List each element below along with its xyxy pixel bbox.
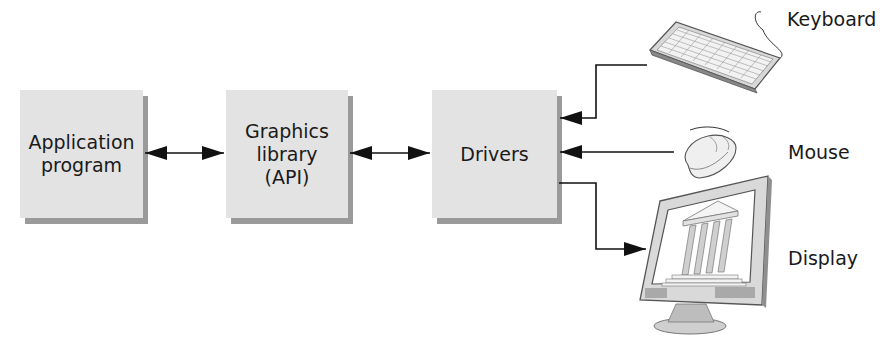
arrow-keyboard-drivers [560, 65, 647, 118]
display-label: Display [788, 247, 858, 269]
diagram-connectors [0, 0, 896, 347]
display-icon [640, 176, 772, 334]
keyboard-label: Keyboard [787, 8, 876, 30]
mouse-label: Mouse [788, 141, 850, 163]
arrow-drivers-display [559, 183, 646, 249]
keyboard-icon [650, 12, 782, 93]
mouse-icon [685, 127, 736, 178]
